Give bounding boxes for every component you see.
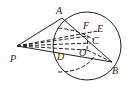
label-c: C [92,35,99,46]
label-d: D [56,51,65,62]
label-e: E [96,23,103,34]
label-f: F [82,20,90,31]
line-fo [87,36,88,50]
line-pf [17,36,88,46]
geometry-diagram: P A B C D E F O [0,0,128,92]
label-o: O [79,47,86,58]
label-p: P [9,53,16,64]
line-pb [17,46,112,62]
line-pa [17,18,62,46]
label-b: B [112,65,118,76]
label-a: A [55,5,63,16]
